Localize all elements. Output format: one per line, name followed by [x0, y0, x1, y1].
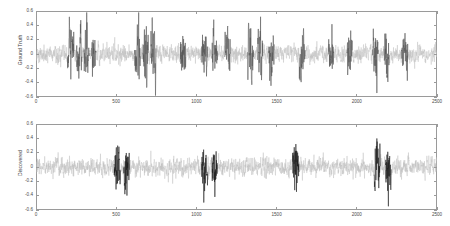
- burst-segment: [402, 33, 408, 81]
- y-tick-label: -0.2: [10, 179, 33, 184]
- matlab-figure: Ground Truth -0.6-0.4-0.200.20.40.6 0500…: [0, 0, 450, 226]
- burst-segment: [67, 17, 74, 79]
- y-tick-label: -0.4: [10, 193, 33, 198]
- x-tick-label: 2500: [423, 213, 450, 218]
- x-tick-mark: [36, 207, 37, 210]
- burst-segment: [124, 153, 130, 196]
- y-tick-mark: [434, 25, 437, 26]
- x-tick-label: 2500: [423, 100, 450, 105]
- burst-segment: [151, 18, 156, 96]
- x-tick-label: 1000: [182, 213, 210, 218]
- y-tick-mark: [36, 181, 39, 182]
- x-tick-label: 0: [22, 213, 50, 218]
- burst-segment: [328, 24, 333, 69]
- y-tick-mark: [36, 82, 39, 83]
- y-tick-label: -0.2: [10, 66, 33, 71]
- y-tick-mark: [434, 138, 437, 139]
- burst-segment: [84, 12, 89, 72]
- x-tick-mark: [116, 207, 117, 210]
- x-tick-label: 1000: [182, 100, 210, 105]
- y-tick-mark: [434, 152, 437, 153]
- burst-segment: [225, 26, 231, 71]
- y-axis-label-discovered: Discovered: [17, 133, 23, 193]
- burst-segment: [143, 26, 149, 87]
- x-tick-mark: [437, 124, 438, 127]
- y-tick-mark: [434, 82, 437, 83]
- x-tick-mark: [437, 94, 438, 97]
- y-tick-mark: [434, 195, 437, 196]
- burst-segment: [374, 138, 380, 190]
- x-tick-mark: [356, 207, 357, 210]
- x-tick-label: 500: [102, 213, 130, 218]
- x-tick-mark: [437, 11, 438, 14]
- burst-segment: [202, 150, 208, 203]
- y-axis-label-ground-truth: Ground Truth: [17, 20, 23, 80]
- burst-segment: [386, 152, 392, 206]
- x-tick-mark: [196, 11, 197, 14]
- x-tick-mark: [356, 11, 357, 14]
- y-tick-mark: [36, 167, 39, 168]
- y-tick-label: 0.2: [10, 37, 33, 42]
- burst-segment: [202, 35, 208, 77]
- y-tick-label: 0.2: [10, 150, 33, 155]
- x-tick-mark: [196, 124, 197, 127]
- y-tick-label: -0.4: [10, 80, 33, 85]
- y-tick-mark: [434, 68, 437, 69]
- y-tick-mark: [434, 167, 437, 168]
- y-tick-mark: [36, 152, 39, 153]
- y-tick-mark: [36, 195, 39, 196]
- y-tick-label: 0.4: [10, 23, 33, 28]
- plot-area-ground-truth: [36, 11, 437, 97]
- y-tick-label: 0.4: [10, 136, 33, 141]
- burst-segment: [76, 20, 82, 78]
- burst-segment: [258, 17, 263, 80]
- burst-segment: [299, 28, 305, 82]
- y-tick-mark: [36, 39, 39, 40]
- x-tick-mark: [196, 94, 197, 97]
- y-tick-label: 0.6: [10, 9, 33, 14]
- y-tick-mark: [36, 25, 39, 26]
- y-tick-label: 0.6: [10, 122, 33, 127]
- burst-segment: [114, 146, 120, 190]
- x-tick-label: 1500: [263, 100, 291, 105]
- x-tick-mark: [36, 11, 37, 14]
- burst-segment: [212, 151, 217, 197]
- x-tick-mark: [356, 94, 357, 97]
- y-tick-label: -0.6: [10, 208, 33, 213]
- x-tick-mark: [276, 124, 277, 127]
- burst-segment: [212, 20, 218, 71]
- x-tick-mark: [116, 94, 117, 97]
- y-tick-mark: [36, 138, 39, 139]
- burst-segment: [180, 36, 186, 70]
- burst-segment: [134, 12, 140, 79]
- plot-area-discovered: [36, 124, 437, 210]
- x-tick-mark: [276, 94, 277, 97]
- burst-segment: [347, 31, 352, 75]
- y-tick-mark: [36, 54, 39, 55]
- y-tick-mark: [434, 39, 437, 40]
- y-tick-label: 0: [10, 52, 33, 57]
- burst-segment: [384, 34, 389, 82]
- subplot-discovered: [36, 124, 437, 210]
- burst-segment: [292, 144, 299, 192]
- x-tick-label: 2000: [343, 213, 371, 218]
- y-tick-mark: [434, 181, 437, 182]
- burst-segment: [91, 40, 96, 77]
- x-tick-mark: [276, 207, 277, 210]
- burst-segment: [373, 29, 379, 93]
- x-tick-label: 2000: [343, 100, 371, 105]
- x-tick-mark: [437, 207, 438, 210]
- burst-segment: [269, 36, 275, 86]
- x-tick-mark: [276, 11, 277, 14]
- x-tick-mark: [196, 207, 197, 210]
- burst-segment: [248, 23, 254, 85]
- x-tick-label: 0: [22, 100, 50, 105]
- y-tick-mark: [36, 68, 39, 69]
- y-tick-mark: [434, 54, 437, 55]
- y-tick-label: 0: [10, 165, 33, 170]
- x-tick-mark: [356, 124, 357, 127]
- x-tick-mark: [36, 124, 37, 127]
- subplot-ground-truth: [36, 11, 437, 97]
- x-tick-label: 1500: [263, 213, 291, 218]
- x-tick-mark: [36, 94, 37, 97]
